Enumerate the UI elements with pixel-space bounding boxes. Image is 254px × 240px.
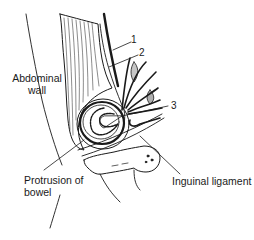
callout-2: 2 xyxy=(139,47,145,58)
callout-3: 3 xyxy=(171,100,177,111)
pubic-bone xyxy=(84,146,160,174)
structure-2-line xyxy=(100,24,125,138)
label-protrusion-of-bowel: Protrusion of bowel xyxy=(24,174,84,198)
callout-1: 1 xyxy=(131,34,137,45)
leader-inguinal xyxy=(140,136,180,174)
leader-1 xyxy=(113,42,131,50)
label-inguinal-ligament: Inguinal ligament xyxy=(172,175,251,187)
label-abdominal-wall: Abdominal wall xyxy=(10,72,64,96)
leader-protrusion xyxy=(44,140,84,170)
